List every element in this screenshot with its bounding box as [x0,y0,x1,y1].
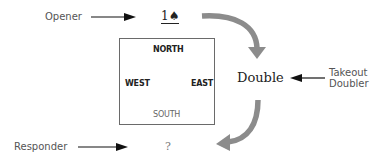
overcall-bid: Double [237,70,284,85]
takeout-doubler-label: Takeout Doubler [329,67,369,89]
responder-pointer-arrow-icon [78,143,128,151]
seat-south: SOUTH [153,110,180,119]
takeout-doubler-label-line2: Doubler [329,78,369,89]
responder-bid: ? [165,140,171,153]
takeout-doubler-label-line1: Takeout [329,67,369,78]
opener-pointer-arrow-icon [91,13,136,21]
opener-label: Opener [45,11,82,22]
doubler-pointer-arrow-icon [290,74,325,82]
seat-north: NORTH [153,45,183,54]
seat-west: WEST [125,79,150,88]
seat-east: EAST [191,79,213,88]
opener-bid: 1♠ [161,9,179,24]
responder-label: Responder [14,141,67,152]
curved-flow-arrow-bottom-icon [216,100,258,151]
